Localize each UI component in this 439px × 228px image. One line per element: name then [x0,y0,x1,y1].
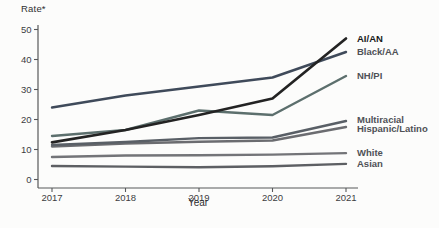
series-label-ai-an: AI/AN [357,33,383,44]
plot-area: 0102030405020172018201920202021AI/ANBlac… [0,0,439,228]
series-label-hispanic-latino: Hispanic/Latino [357,123,428,134]
series-line-nh-pi [52,76,346,136]
y-axis-title: Rate* [21,3,46,14]
x-axis-title: Year [188,197,208,208]
y-tick-label-30: 30 [21,84,32,95]
series-label-nh-pi: NH/PI [357,70,382,81]
series-label-white: White [357,147,383,158]
x-tick-label-2018: 2018 [115,192,136,203]
x-tick-label-2017: 2017 [41,192,62,203]
y-tick-label-40: 40 [21,54,32,65]
series-line-asian [52,164,346,167]
y-tick-label-50: 50 [21,24,32,35]
series-label-asian: Asian [357,158,383,169]
y-tick-label-0: 0 [26,174,31,185]
y-tick-label-20: 20 [21,114,32,125]
series-label-black-aa: Black/AA [357,46,399,57]
series-line-white [52,153,346,157]
x-tick-label-2020: 2020 [262,192,283,203]
line-chart-figure: Rate* 0102030405020172018201920202021AI/… [0,0,439,228]
series-line-ai-an [52,39,346,143]
x-tick-label-2021: 2021 [335,192,356,203]
y-tick-label-10: 10 [21,144,32,155]
